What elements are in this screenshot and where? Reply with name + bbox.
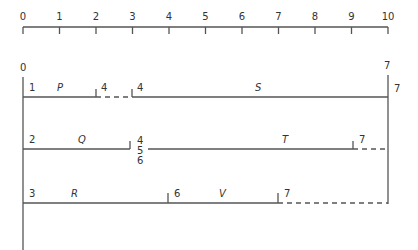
network-diagram: 012345678910 0 7 1 P 4 4 S 7 2 Q 4 5 6 T… <box>0 0 418 250</box>
event-label: 7 <box>284 188 290 199</box>
activity-label-s: S <box>255 82 262 93</box>
scale-tick-label: 2 <box>93 11 99 22</box>
scale-tick-label: 6 <box>239 11 245 22</box>
scale-tick-label: 5 <box>202 11 208 22</box>
start-node-label: 0 <box>20 62 26 73</box>
scale-tick-label: 3 <box>129 11 135 22</box>
scale-tick-label: 4 <box>166 11 172 22</box>
row1-end-event: 7 <box>394 83 400 94</box>
event-label: 7 <box>359 134 365 145</box>
event-label: 4 <box>101 82 107 93</box>
row-3: 3 R 6 V 7 <box>23 188 388 203</box>
activity-label-r: R <box>71 188 78 199</box>
scale-tick-label: 8 <box>312 11 318 22</box>
event-label: 6 <box>137 155 143 166</box>
scale-tick-label: 9 <box>348 11 354 22</box>
row3-start-event: 3 <box>29 188 35 199</box>
activity-label-v: V <box>219 188 227 199</box>
end-node-label: 7 <box>384 60 390 71</box>
event-label: 6 <box>174 188 180 199</box>
row-1: 1 P 4 4 S 7 <box>23 82 400 97</box>
activity-label-p: P <box>57 82 64 93</box>
activity-label-q: Q <box>78 134 86 145</box>
scale-tick-label: 0 <box>20 11 26 22</box>
row-2: 2 Q 4 5 6 T 7 <box>23 134 388 166</box>
event-label: 4 <box>137 82 143 93</box>
time-scale: 012345678910 <box>20 11 395 34</box>
activity-label-t: T <box>282 134 289 145</box>
row1-start-event: 1 <box>29 82 35 93</box>
scale-tick-label: 1 <box>56 11 62 22</box>
row2-start-event: 2 <box>29 134 35 145</box>
scale-tick-label: 10 <box>382 11 395 22</box>
scale-tick-label: 7 <box>275 11 281 22</box>
